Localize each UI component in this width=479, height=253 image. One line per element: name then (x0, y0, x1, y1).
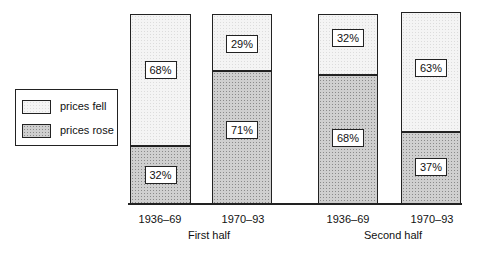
value-label: 68% (144, 61, 176, 79)
group-label-second-half: Second half (364, 229, 422, 241)
value-label: 68% (332, 129, 364, 147)
x-axis-line (128, 203, 462, 205)
legend: prices fell prices rose (15, 89, 118, 146)
value-label: 32% (144, 166, 176, 184)
x-tick-label: 1970–93 (222, 213, 265, 225)
bar-first-half-1936-69: 68% 32% (130, 14, 191, 205)
group-label-first-half: First half (188, 229, 230, 241)
x-tick-label: 1970–93 (411, 213, 454, 225)
bar-second-half-1970-93: 63% 37% (401, 12, 461, 205)
legend-label-rose: prices rose (60, 124, 114, 136)
segment-prices-rose: 68% (319, 74, 377, 204)
legend-label-fell: prices fell (60, 100, 106, 112)
segment-prices-fell: 29% (213, 15, 271, 70)
legend-swatch-fell (22, 100, 51, 114)
segment-prices-rose: 71% (213, 70, 271, 204)
value-label: 37% (415, 158, 447, 176)
x-tick-label: 1936–69 (327, 213, 370, 225)
bar-first-half-1970-93: 29% 71% (212, 14, 272, 205)
bar-second-half-1936-69: 32% 68% (318, 14, 378, 205)
value-label: 71% (226, 121, 258, 139)
value-label: 63% (415, 59, 447, 77)
x-tick-label: 1936–69 (139, 213, 182, 225)
segment-prices-fell: 63% (402, 13, 460, 131)
segment-prices-fell: 68% (131, 15, 190, 145)
value-label: 29% (226, 35, 258, 53)
segment-prices-rose: 32% (131, 145, 190, 204)
value-label: 32% (332, 29, 364, 47)
segment-prices-fell: 32% (319, 15, 377, 74)
segment-prices-rose: 37% (402, 131, 460, 204)
legend-swatch-rose (22, 124, 51, 138)
